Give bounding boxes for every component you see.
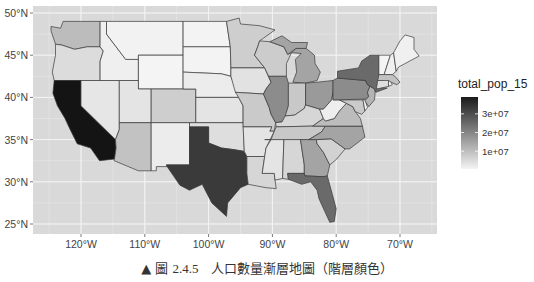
x-tick-label: 80°W — [323, 238, 349, 250]
caption-marker: ▲ — [141, 261, 151, 276]
x-tick-label: 100°W — [193, 238, 225, 250]
y-tick-label: 50°N — [5, 7, 28, 19]
caption-prefix: 圖 — [155, 261, 168, 276]
x-tick-label: 70°W — [387, 238, 413, 250]
x-tick-label: 120°W — [65, 238, 97, 250]
state-colorado — [151, 89, 196, 123]
x-tick-label: 110°W — [129, 238, 160, 250]
x-axis: 120°W110°W100°W90°W80°W70°W — [65, 234, 413, 250]
state-new-mexico — [151, 123, 189, 171]
state-pennsylvania — [333, 78, 370, 100]
caption-text: 人口數量漸層地圖（階層顏色） — [211, 261, 393, 276]
figure-caption: ▲ 圖 2.4.5 人口數量漸層地圖（階層顏色） — [0, 258, 534, 277]
x-tick-label: 90°W — [260, 238, 286, 250]
y-tick-label: 40°N — [5, 91, 28, 103]
legend-label: 3e+07 — [482, 108, 509, 119]
legend-title: total_pop_15 — [458, 77, 528, 91]
state-north-dakota — [183, 21, 230, 46]
legend: total_pop_15 1e+072e+073e+07 — [458, 77, 528, 169]
choropleth-figure: 25°N30°N35°N40°N45°N50°N 120°W110°W100°W… — [0, 0, 534, 256]
y-tick-label: 45°N — [5, 49, 28, 61]
state-wyoming — [138, 55, 183, 89]
legend-label: 2e+07 — [482, 127, 509, 138]
legend-colorbar — [461, 97, 478, 169]
y-tick-label: 30°N — [5, 176, 28, 188]
caption-number: 2.4.5 — [172, 261, 198, 276]
legend-label: 1e+07 — [482, 146, 509, 157]
state-oregon — [52, 44, 103, 80]
state-south-dakota — [183, 47, 231, 77]
y-tick-label: 25°N — [5, 218, 28, 230]
y-tick-label: 35°N — [5, 134, 28, 146]
y-axis: 25°N30°N35°N40°N45°N50°N — [5, 7, 33, 230]
state-kansas — [196, 97, 243, 122]
